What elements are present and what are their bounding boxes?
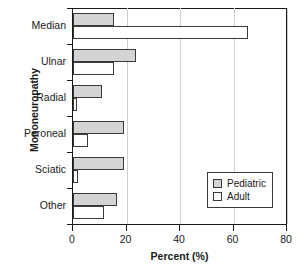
- y-axis-label-radial: Radial: [8, 92, 66, 103]
- y-axis-tick-labels: MedianUlnarRadialPeronealSciaticOther: [0, 0, 66, 270]
- y-axis-label-median: Median: [8, 20, 66, 31]
- x-axis-tick-label-40: 40: [159, 233, 199, 245]
- gridline-40: [180, 8, 181, 224]
- bar-other-adult: [73, 206, 104, 219]
- y-axis-tick-median: [67, 8, 73, 9]
- mononeuropathy-percent-bar-chart: Mononeuropathy MedianUlnarRadialPeroneal…: [0, 0, 299, 270]
- bar-peroneal-pediatric: [73, 121, 124, 134]
- y-axis-tick-other: [67, 188, 73, 189]
- legend-swatch-pediatric-icon: [213, 179, 222, 188]
- bar-sciatic-adult: [73, 170, 78, 183]
- legend-label-adult: Adult: [227, 191, 250, 202]
- y-axis-label-ulnar: Ulnar: [8, 56, 66, 67]
- y-axis-label-peroneal: Peroneal: [8, 128, 66, 139]
- x-axis-tick-80: [286, 225, 287, 231]
- x-axis-tick-20: [126, 225, 127, 231]
- gridline-20: [127, 8, 128, 224]
- x-axis-tick-label-60: 60: [213, 233, 253, 245]
- legend-swatch-adult-icon: [213, 192, 222, 201]
- bar-other-pediatric: [73, 193, 117, 206]
- bar-radial-adult: [73, 98, 77, 111]
- y-axis-label-other: Other: [8, 200, 66, 211]
- y-axis-tick-ulnar: [67, 44, 73, 45]
- x-axis-tick-label-80: 80: [266, 233, 299, 245]
- x-axis-tick-0: [72, 225, 73, 231]
- y-axis-tick-sciatic: [67, 152, 73, 153]
- bar-sciatic-pediatric: [73, 157, 124, 170]
- bar-ulnar-adult: [73, 62, 114, 75]
- gridline-80: [287, 8, 288, 224]
- x-axis-tick-label-20: 20: [106, 233, 146, 245]
- bar-radial-pediatric: [73, 85, 102, 98]
- bar-peroneal-adult: [73, 134, 88, 147]
- legend-item-adult: Adult: [213, 190, 266, 203]
- y-axis-tick-radial: [67, 80, 73, 81]
- x-axis-tick-60: [233, 225, 234, 231]
- legend: PediatricAdult: [207, 172, 273, 208]
- bar-median-adult: [73, 26, 248, 39]
- y-axis-tick-peroneal: [67, 116, 73, 117]
- legend-label-pediatric: Pediatric: [227, 178, 266, 189]
- x-axis-tick-40: [179, 225, 180, 231]
- x-axis-tick-label-0: 0: [52, 233, 92, 245]
- y-axis-label-sciatic: Sciatic: [8, 164, 66, 175]
- bar-median-pediatric: [73, 13, 114, 26]
- legend-item-pediatric: Pediatric: [213, 177, 266, 190]
- x-axis-title: Percent (%): [72, 250, 287, 262]
- bar-ulnar-pediatric: [73, 49, 136, 62]
